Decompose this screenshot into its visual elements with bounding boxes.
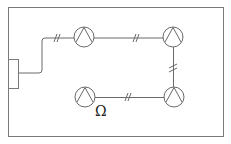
distribution-panel [9, 60, 19, 89]
wire-panel-to-lamp-1 [19, 38, 75, 73]
lamp-icon [164, 87, 184, 107]
wiring-diagram: Ω [0, 0, 231, 144]
lamp-icon [75, 87, 95, 107]
lamp-icon [74, 27, 94, 47]
omega-label: Ω [95, 103, 107, 119]
lamp-icon [163, 27, 183, 47]
